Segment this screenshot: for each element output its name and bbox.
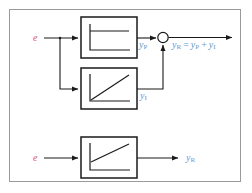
summing-junction[interactable] — [158, 32, 168, 42]
block-diagram — [0, 0, 252, 193]
bottom-output-subscript: R — [190, 156, 195, 164]
bottom-input-label: e — [33, 153, 37, 163]
i-output-subscript: I — [144, 94, 146, 102]
equation-term2-subscript: I — [213, 43, 215, 51]
p-output-label: yP — [139, 40, 147, 51]
top-input-label: e — [33, 33, 37, 43]
integral-block[interactable] — [81, 68, 137, 109]
equation-equals: = — [183, 39, 189, 50]
figure-container: e yP yI yR=yP+yI e yR — [0, 0, 252, 193]
proportional-block[interactable] — [81, 17, 137, 58]
i-output-wire — [137, 45, 163, 89]
equation-term1-subscript: P — [195, 43, 199, 51]
bottom-output-label: yR — [186, 153, 195, 164]
i-output-label: yI — [140, 91, 147, 102]
sum-equation-label: yR=yP+yI — [172, 40, 216, 51]
equation-plus: + — [201, 39, 207, 50]
equation-lhs-subscript: R — [176, 43, 181, 51]
pi-block[interactable] — [81, 137, 137, 178]
input-branch-wire — [59, 37, 78, 89]
p-output-subscript: P — [143, 43, 147, 51]
